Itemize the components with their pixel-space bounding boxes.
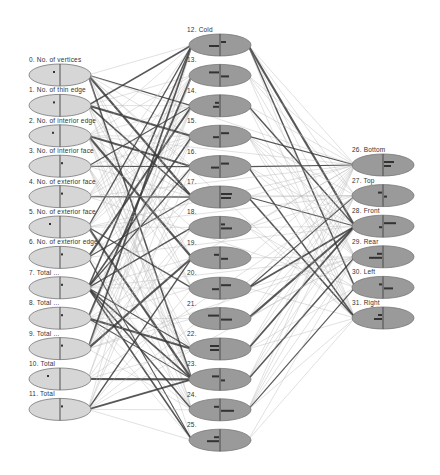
edge xyxy=(248,136,355,165)
probability-bar xyxy=(209,71,219,73)
node-10[interactable]: 10. Total xyxy=(29,360,91,390)
probability-bar xyxy=(52,132,54,134)
node-17[interactable]: 17. xyxy=(187,178,251,208)
edge xyxy=(248,226,355,410)
node-label: 5. No. of exterior face xyxy=(29,208,96,215)
probability-bar xyxy=(221,193,232,195)
node-label: 8. Total ... xyxy=(29,299,59,306)
probability-bar xyxy=(53,101,55,103)
probability-bar xyxy=(47,375,49,377)
node-label: 13. xyxy=(187,56,197,63)
edge xyxy=(248,318,355,440)
node-31[interactable]: 31. Right xyxy=(352,299,414,329)
probability-bar xyxy=(384,287,393,289)
probability-bar xyxy=(379,226,382,228)
probability-bar xyxy=(61,314,63,316)
edge xyxy=(88,45,192,105)
probability-bar xyxy=(61,405,63,407)
node-24[interactable]: 24. xyxy=(187,391,251,421)
edge xyxy=(248,196,355,410)
node-3[interactable]: 3. No. of interior face xyxy=(29,147,94,177)
probability-bar xyxy=(210,349,219,351)
probability-bar xyxy=(221,41,226,43)
nodes-layer: 0. No. of vertices1. No. of thin edge2. … xyxy=(29,26,414,451)
node-label: 12. Cold xyxy=(187,26,213,33)
node-29[interactable]: 29. Rear xyxy=(352,238,414,268)
node-16[interactable]: 16. xyxy=(187,148,251,178)
probability-bar xyxy=(221,379,225,381)
probability-bar xyxy=(49,223,51,225)
node-label: 22. xyxy=(187,330,197,337)
edge xyxy=(88,75,192,348)
network-diagram: 0. No. of vertices1. No. of thin edge2. … xyxy=(0,0,440,475)
probability-bar xyxy=(215,102,219,104)
node-25[interactable]: 25. xyxy=(187,421,251,451)
node-9[interactable]: 9. Total ... xyxy=(29,330,91,360)
probability-bar xyxy=(211,167,219,169)
node-label: 25. xyxy=(187,421,197,428)
node-label: 21. xyxy=(187,300,197,307)
node-label: 17. xyxy=(187,178,197,185)
node-label: 20. xyxy=(187,269,197,276)
probability-bar xyxy=(369,257,382,259)
node-11[interactable]: 11. Total xyxy=(29,390,91,420)
node-26[interactable]: 26. Bottom xyxy=(352,146,414,176)
node-2[interactable]: 2. No. of interior edge xyxy=(29,117,96,147)
probability-bar xyxy=(221,410,234,412)
probability-bar xyxy=(221,132,229,134)
probability-bar xyxy=(221,319,232,321)
node-7[interactable]: 7. Total ... xyxy=(29,269,91,299)
probability-bar xyxy=(208,315,219,317)
node-label: 15. xyxy=(187,117,197,124)
probability-bar xyxy=(214,254,219,256)
edge xyxy=(248,106,355,165)
probability-bar xyxy=(214,406,219,408)
node-8[interactable]: 8. Total ... xyxy=(29,299,91,329)
node-27[interactable]: 27. Top xyxy=(352,177,414,207)
probability-bar xyxy=(213,136,219,138)
node-28[interactable]: 28. Front xyxy=(352,207,414,237)
probability-bar xyxy=(221,197,231,199)
probability-bar xyxy=(214,436,219,438)
probability-bar xyxy=(61,345,63,347)
node-4[interactable]: 4. No. of exterior face xyxy=(29,178,96,208)
probability-bar xyxy=(221,75,229,77)
node-30[interactable]: 30. Left xyxy=(352,268,414,298)
node-6[interactable]: 6. No. of exterior edge xyxy=(29,238,98,268)
probability-bar xyxy=(221,258,228,260)
node-label: 0. No. of vertices xyxy=(29,56,82,63)
node-label: 1. No. of thin edge xyxy=(29,86,86,94)
node-label: 18. xyxy=(187,208,197,215)
probability-bar xyxy=(212,375,219,377)
node-23[interactable]: 23. xyxy=(187,360,251,390)
probability-bar xyxy=(221,163,229,165)
edge xyxy=(88,409,192,440)
probability-bar xyxy=(384,196,387,198)
probability-bar xyxy=(378,192,382,194)
node-label: 14. xyxy=(187,87,197,94)
node-label: 29. Rear xyxy=(352,238,379,245)
node-label: 23. xyxy=(187,360,197,367)
node-label: 19. xyxy=(187,239,197,246)
node-18[interactable]: 18. xyxy=(187,208,251,238)
node-13[interactable]: 13. xyxy=(187,56,251,86)
node-label: 30. Left xyxy=(352,268,375,275)
node-12[interactable]: 12. Cold xyxy=(187,26,251,56)
node-label: 27. Top xyxy=(352,177,375,185)
probability-bar xyxy=(209,45,219,47)
node-1[interactable]: 1. No. of thin edge xyxy=(29,86,91,116)
node-15[interactable]: 15. xyxy=(187,117,251,147)
probability-bar xyxy=(378,314,382,316)
node-0[interactable]: 0. No. of vertices xyxy=(29,56,91,86)
probability-bar xyxy=(213,106,219,108)
node-label: 7. Total ... xyxy=(29,269,59,276)
node-label: 28. Front xyxy=(352,207,380,214)
probability-bar xyxy=(384,165,391,167)
node-14[interactable]: 14. xyxy=(187,87,251,117)
probability-bar xyxy=(377,253,382,255)
node-label: 24. xyxy=(187,391,197,398)
probability-bar xyxy=(384,222,396,224)
node-21[interactable]: 21. xyxy=(187,300,251,330)
probability-bar xyxy=(221,284,231,286)
node-5[interactable]: 5. No. of exterior face xyxy=(29,208,96,238)
